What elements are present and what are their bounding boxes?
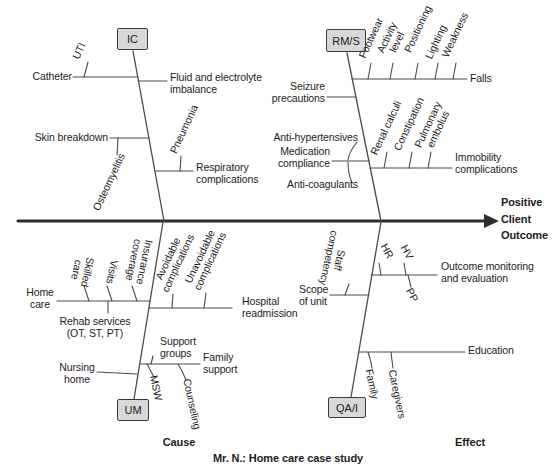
label-outcome-monitoring: Outcome monitoring and evaluation: [441, 261, 534, 285]
unavoidable-tick: [204, 293, 206, 308]
renal-calculi-tick: [384, 152, 387, 168]
weakness-tick: [453, 63, 456, 79]
skilled-care-tick: [84, 286, 89, 301]
label-support-groups: Support groups: [160, 336, 196, 360]
footwear-tick: [368, 63, 371, 79]
caregivers-tick: [391, 352, 393, 368]
label-skilled-care: Skilled care: [68, 254, 96, 288]
diagram-caption: Mr. N.: Home care case study: [213, 452, 363, 464]
category-box-qai: QA/I: [328, 397, 366, 418]
family-tick: [368, 352, 372, 368]
constipation-tick: [409, 152, 412, 168]
label-seizure-precautions: Seizure precautions: [263, 81, 325, 105]
label-rehab-services: Rehab services (OT, ST, PT): [55, 316, 135, 340]
label-nursing-home: Nursing home: [57, 362, 97, 386]
label-cause: Cause: [159, 436, 199, 448]
hv-tick: [404, 263, 406, 275]
label-effect: Effect: [450, 436, 490, 448]
fishbone-diagram: IC RM/S UM QA/I Catheter UTI Fluid and e…: [0, 0, 552, 475]
label-home-care: Home care: [24, 287, 56, 311]
label-immobility-complications: Immobility complications: [455, 152, 517, 176]
positioning-tick: [415, 63, 418, 79]
label-scope-of-unit: Scope of unit: [299, 284, 328, 308]
anti-hypertensives-curve: [348, 142, 357, 160]
counseling-tick: [178, 364, 186, 380]
label-fluid-electrolyte: Fluid and electrolyte imbalance: [170, 72, 262, 96]
label-anti-hypertensives: Anti-hypertensives: [266, 132, 358, 144]
label-positive-client-outcome: Positive Client Outcome: [501, 194, 548, 244]
label-education: Education: [468, 345, 514, 357]
activity-level-tick: [390, 63, 393, 79]
label-skin-breakdown: Skin breakdown: [28, 132, 108, 144]
pneumonia-tick: [180, 156, 181, 171]
lighting-tick: [435, 63, 438, 79]
support-groups-tick: [151, 356, 153, 364]
pulmonary-embolus-tick: [428, 152, 431, 168]
category-box-ic: IC: [117, 28, 148, 50]
hr-tick: [379, 263, 381, 275]
avoidable-tick: [172, 294, 173, 308]
staff-competency-tick: [345, 284, 349, 295]
uti-tick: [84, 62, 88, 77]
label-family-support: Family support: [203, 352, 237, 376]
label-falls: Falls: [470, 73, 492, 85]
spine-arrowhead: [484, 214, 499, 228]
label-anti-coagulants: Anti-coagulants: [282, 179, 358, 191]
nursing-home-line: [97, 372, 137, 374]
category-box-um: UM: [117, 399, 149, 421]
pp-tick: [408, 275, 411, 287]
insurance-coverage-tick: [132, 286, 137, 301]
label-medication-compliance: Medication compliance: [276, 146, 330, 170]
label-respiratory-complications: Respiratory complications: [196, 162, 258, 186]
label-catheter: Catheter: [20, 71, 72, 83]
label-hospital-readmission: Hospital readmission: [242, 296, 298, 320]
visits-tick: [107, 286, 112, 301]
